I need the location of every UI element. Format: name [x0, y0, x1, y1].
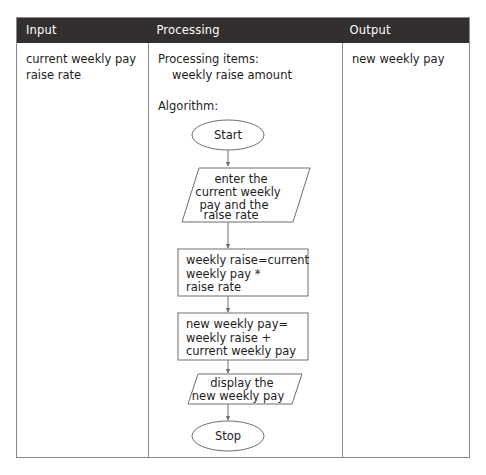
algorithm-label: Algorithm:: [158, 99, 333, 115]
processing-items-label: Processing items:: [158, 52, 333, 68]
ipo-table: Input Processing Output current weekly p…: [16, 17, 470, 458]
cell-input: current weekly pay raise rate: [17, 43, 148, 457]
processing-spacer: [158, 83, 333, 99]
cell-processing: Processing items: weekly raise amount Al…: [149, 43, 342, 457]
cell-output: new weekly pay: [343, 43, 471, 457]
input-item-1: current weekly pay: [26, 52, 139, 68]
output-item-1: new weekly pay: [352, 52, 462, 68]
column-header-input: Input: [17, 18, 147, 43]
table-header-row: Input Processing Output: [17, 18, 469, 43]
column-header-processing: Processing: [147, 18, 340, 43]
processing-item-1: weekly raise amount: [158, 68, 333, 84]
column-header-output: Output: [341, 18, 469, 43]
input-item-2: raise rate: [26, 68, 139, 84]
